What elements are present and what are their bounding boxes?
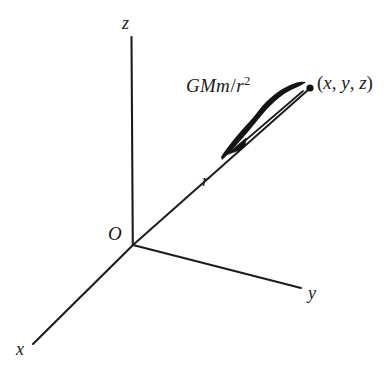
y-axis-line: [133, 245, 301, 288]
z-axis-line: [132, 37, 133, 245]
coord-comma-1: ,: [332, 72, 342, 93]
x-axis-label: x: [16, 340, 24, 358]
radius-line: [133, 90, 308, 245]
origin-label: O: [108, 224, 122, 243]
force-label-exponent: 2: [244, 74, 250, 88]
coord-z: z: [359, 72, 366, 93]
force-label-numerator: GMm: [186, 75, 230, 96]
radius-label: r: [202, 172, 209, 189]
coord-x: x: [323, 72, 331, 93]
point-marker: [306, 84, 313, 91]
figure-canvas: z y x O r GMm/r2 (x, y, z): [0, 0, 389, 365]
coord-comma-2: ,: [350, 72, 360, 93]
coordinate-diagram-svg: [0, 0, 389, 365]
force-label-denominator: r: [236, 75, 244, 96]
coord-y: y: [341, 72, 349, 93]
y-axis-label: y: [308, 284, 316, 302]
z-axis-label: z: [122, 14, 129, 32]
force-magnitude-label: GMm/r2: [186, 76, 250, 95]
point-coordinates-label: (x, y, z): [317, 73, 373, 92]
paren-close: ): [367, 72, 373, 93]
x-axis-line: [33, 245, 133, 344]
